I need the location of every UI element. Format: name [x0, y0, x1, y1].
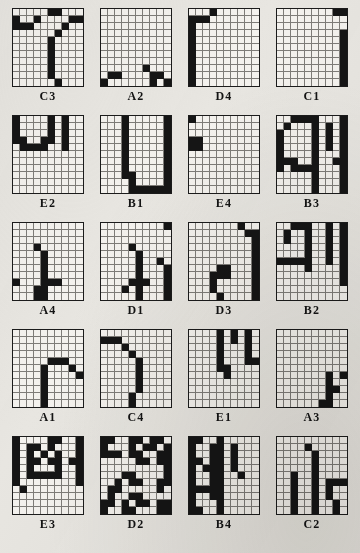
pattern-pixel[interactable]: [298, 493, 305, 500]
pattern-pixel[interactable]: [224, 223, 231, 230]
pattern-pixel[interactable]: [164, 479, 171, 486]
pattern-pixel[interactable]: [210, 144, 217, 151]
pattern-pixel[interactable]: [62, 58, 69, 65]
pattern-pixel[interactable]: [333, 372, 340, 379]
pattern-pixel[interactable]: [231, 158, 238, 165]
pattern-pixel[interactable]: [164, 230, 171, 237]
pattern-pixel[interactable]: [62, 479, 69, 486]
pattern-pixel[interactable]: [150, 16, 157, 23]
pattern-pixel[interactable]: [210, 158, 217, 165]
pattern-pixel[interactable]: [238, 365, 245, 372]
pattern-pixel[interactable]: [224, 358, 231, 365]
pattern-pixel[interactable]: [13, 444, 20, 451]
pattern-pixel[interactable]: [284, 223, 291, 230]
pattern-pixel[interactable]: [34, 130, 41, 137]
pattern-pixel[interactable]: [69, 386, 76, 393]
pattern-pixel[interactable]: [210, 237, 217, 244]
pattern-pixel[interactable]: [252, 293, 259, 300]
pattern-pixel[interactable]: [143, 51, 150, 58]
pattern-pixel[interactable]: [284, 351, 291, 358]
pattern-pixel[interactable]: [115, 130, 122, 137]
pattern-pixel[interactable]: [164, 286, 171, 293]
pattern-pixel[interactable]: [34, 372, 41, 379]
pattern-pixel[interactable]: [76, 244, 83, 251]
pattern-pixel[interactable]: [319, 137, 326, 144]
pattern-pixel[interactable]: [217, 51, 224, 58]
pattern-pixel[interactable]: [129, 72, 136, 79]
pattern-pixel[interactable]: [164, 9, 171, 16]
pattern-pixel[interactable]: [231, 37, 238, 44]
pattern-pixel[interactable]: [136, 486, 143, 493]
pattern-pixel[interactable]: [48, 37, 55, 44]
pattern-pixel[interactable]: [284, 472, 291, 479]
pattern-pixel[interactable]: [13, 65, 20, 72]
pattern-pixel[interactable]: [231, 337, 238, 344]
pattern-pixel[interactable]: [108, 165, 115, 172]
pattern-pixel[interactable]: [340, 244, 347, 251]
pattern-pixel[interactable]: [122, 493, 129, 500]
pattern-pixel[interactable]: [13, 9, 20, 16]
pattern-pixel[interactable]: [122, 116, 129, 123]
pattern-pixel[interactable]: [189, 151, 196, 158]
pattern-pixel[interactable]: [143, 179, 150, 186]
pattern-pixel[interactable]: [69, 293, 76, 300]
pattern-pixel[interactable]: [122, 437, 129, 444]
pattern-pixel[interactable]: [157, 151, 164, 158]
pattern-pixel[interactable]: [150, 507, 157, 514]
pattern-pixel[interactable]: [231, 237, 238, 244]
pattern-pixel[interactable]: [13, 286, 20, 293]
pattern-pixel[interactable]: [27, 500, 34, 507]
pattern-pixel[interactable]: [136, 16, 143, 23]
pattern-pixel[interactable]: [217, 165, 224, 172]
pattern-pixel[interactable]: [291, 116, 298, 123]
pattern-pixel[interactable]: [238, 172, 245, 179]
pattern-pixel[interactable]: [319, 337, 326, 344]
pattern-pixel[interactable]: [217, 330, 224, 337]
pattern-pixel[interactable]: [224, 58, 231, 65]
pattern-pixel[interactable]: [245, 65, 252, 72]
pattern-pixel[interactable]: [245, 30, 252, 37]
pattern-pixel[interactable]: [164, 465, 171, 472]
pattern-pixel[interactable]: [48, 230, 55, 237]
pattern-pixel[interactable]: [231, 72, 238, 79]
pattern-pixel[interactable]: [20, 337, 27, 344]
pattern-pixel[interactable]: [224, 9, 231, 16]
pattern-pixel[interactable]: [245, 237, 252, 244]
pattern-pixel[interactable]: [69, 123, 76, 130]
pattern-pixel[interactable]: [69, 479, 76, 486]
pattern-pixel[interactable]: [305, 279, 312, 286]
pattern-pixel[interactable]: [20, 379, 27, 386]
pattern-pixel[interactable]: [319, 123, 326, 130]
pattern-pixel[interactable]: [150, 179, 157, 186]
pattern-pixel[interactable]: [41, 223, 48, 230]
pattern-pixel[interactable]: [210, 23, 217, 30]
pattern-pixel[interactable]: [122, 65, 129, 72]
pattern-pixel[interactable]: [143, 379, 150, 386]
pattern-pixel[interactable]: [76, 58, 83, 65]
pattern-pixel[interactable]: [333, 158, 340, 165]
pattern-pixel[interactable]: [69, 465, 76, 472]
pattern-pixel[interactable]: [20, 472, 27, 479]
pattern-pixel[interactable]: [136, 372, 143, 379]
pattern-pixel[interactable]: [333, 9, 340, 16]
pattern-pixel[interactable]: [150, 72, 157, 79]
pattern-pixel[interactable]: [136, 58, 143, 65]
pattern-pixel[interactable]: [326, 16, 333, 23]
pattern-pixel[interactable]: [284, 44, 291, 51]
pattern-pixel[interactable]: [203, 265, 210, 272]
pattern-pixel[interactable]: [224, 458, 231, 465]
pattern-pixel[interactable]: [41, 237, 48, 244]
pattern-pixel[interactable]: [101, 44, 108, 51]
pattern-pixel[interactable]: [62, 437, 69, 444]
pattern-pixel[interactable]: [34, 365, 41, 372]
pattern-pixel[interactable]: [298, 358, 305, 365]
pattern-pixel[interactable]: [326, 358, 333, 365]
pattern-pixel[interactable]: [34, 337, 41, 344]
pattern-pixel[interactable]: [143, 244, 150, 251]
pattern-pixel[interactable]: [34, 151, 41, 158]
pattern-pixel[interactable]: [217, 30, 224, 37]
pattern-pixel[interactable]: [157, 144, 164, 151]
pattern-pixel[interactable]: [340, 465, 347, 472]
pattern-pixel[interactable]: [62, 451, 69, 458]
pattern-pixel[interactable]: [27, 37, 34, 44]
